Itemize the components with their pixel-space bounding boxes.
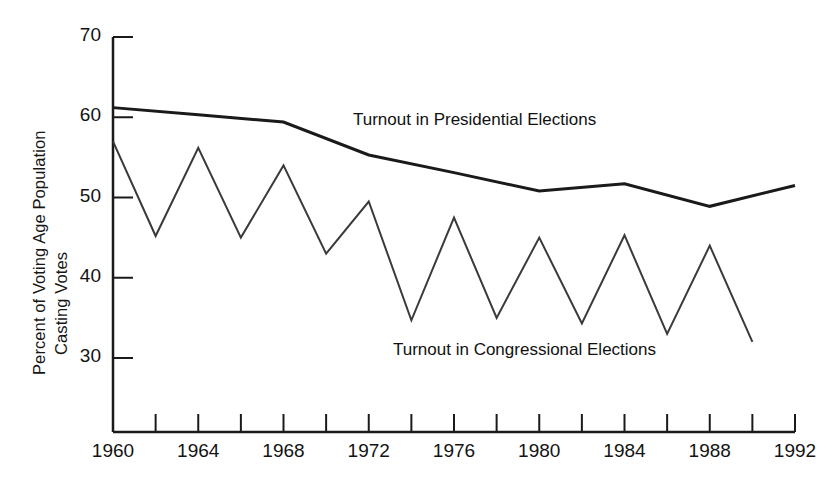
series-label-congressional: Turnout in Congressional Elections <box>393 340 656 360</box>
series-line <box>113 141 752 342</box>
series-label-presidential: Turnout in Presidential Elections <box>353 110 596 130</box>
chart-container: Percent of Voting Age Population Casting… <box>0 0 838 492</box>
data-series <box>113 108 795 342</box>
axes <box>113 37 795 432</box>
plot-area <box>0 0 838 492</box>
